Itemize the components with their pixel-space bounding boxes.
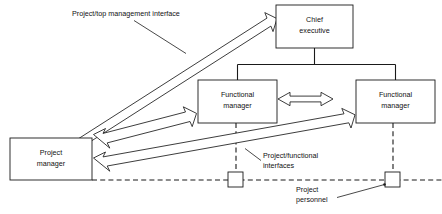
- node-label-line2: manager: [223, 101, 252, 110]
- node-project-personnel-left[interactable]: [228, 172, 243, 187]
- node-label-line2: manager: [37, 159, 66, 168]
- personnel-square: [385, 172, 400, 187]
- node-functional-manager-right[interactable]: Functional manager: [356, 80, 435, 123]
- annotation-text-line2: interfaces: [263, 161, 295, 170]
- org-interface-diagram: Chief executive Functional manager Funct…: [0, 0, 442, 214]
- leader-dot-project-personnel: [383, 183, 386, 186]
- annotation-text-line2: personnel: [296, 195, 328, 204]
- node-label-line2: manager: [381, 101, 410, 110]
- annotation-project-top-management-interface: Project/top management interface: [72, 9, 180, 18]
- node-project-manager[interactable]: Project manager: [10, 138, 92, 180]
- annotation-text-line1: Project/functional: [263, 151, 319, 160]
- personnel-square: [228, 172, 243, 187]
- node-label-line2: executive: [299, 26, 329, 35]
- leader-project-personnel: [337, 185, 385, 198]
- node-chief-executive[interactable]: Chief executive: [276, 5, 353, 48]
- annotation-project-functional-interfaces: Project/functional interfaces: [263, 151, 319, 170]
- node-label-line1: Chief: [306, 15, 323, 24]
- annotation-text-line1: Project/top management interface: [72, 9, 180, 18]
- node-label-line1: Functional: [221, 90, 255, 99]
- diagram-canvas: Chief executive Functional manager Funct…: [0, 0, 442, 214]
- arrow-functional-manager-left-to-right: [278, 92, 333, 105]
- org-tree-connectors: [238, 48, 396, 80]
- leader-project-top-management: [134, 21, 186, 54]
- node-label-line1: Project: [40, 148, 62, 157]
- node-label-line1: Functional: [379, 90, 413, 99]
- double-block-arrow-shape: [278, 92, 333, 105]
- annotation-project-personnel: Project personnel: [296, 185, 328, 204]
- node-functional-manager-left[interactable]: Functional manager: [198, 80, 277, 123]
- leader-project-functional: [245, 149, 261, 161]
- node-project-personnel-right[interactable]: [385, 172, 400, 187]
- annotation-text-line1: Project: [296, 185, 318, 194]
